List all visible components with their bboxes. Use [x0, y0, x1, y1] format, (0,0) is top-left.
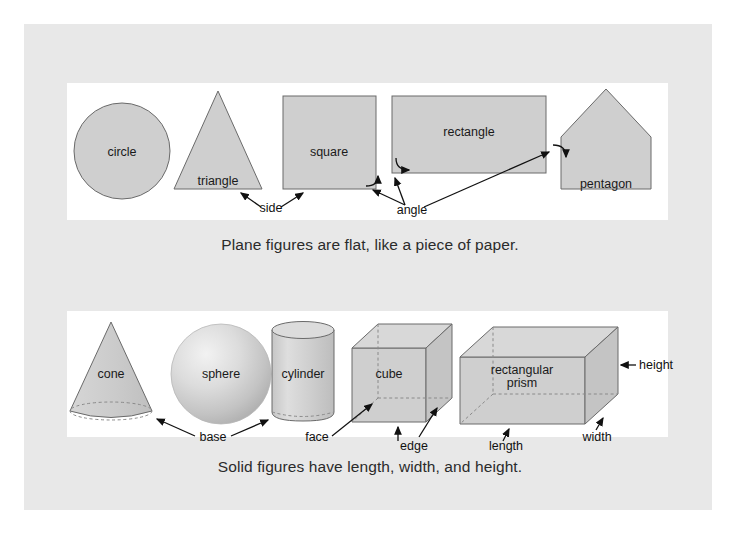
- page-root: circle triangle square rectangle pentago…: [0, 0, 740, 533]
- solid-figures-caption: Solid figures have length, width, and he…: [0, 458, 740, 476]
- plane-figures-panel: [67, 83, 668, 220]
- solid-figures-panel: [67, 311, 668, 437]
- plane-figures-caption: Plane figures are flat, like a piece of …: [0, 236, 740, 254]
